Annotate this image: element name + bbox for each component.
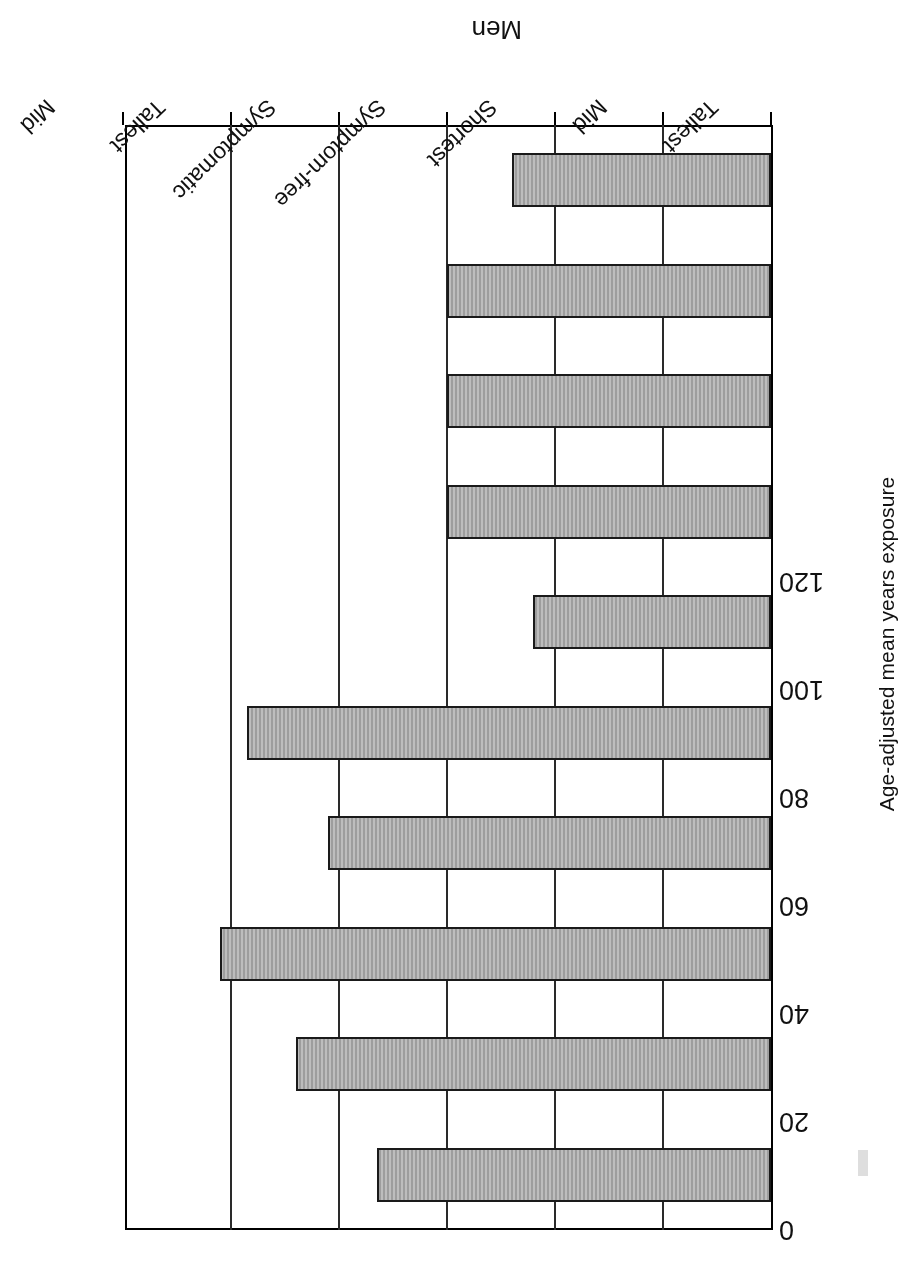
y-axis-tick-labels: 020406080100120 <box>779 125 841 1230</box>
bar-women-shortest <box>447 374 771 428</box>
y-axis-tick-label: 40 <box>779 999 841 1030</box>
y-axis-title: Age-adjusted mean years exposure <box>867 0 902 1288</box>
bar-women-symptomatic <box>512 153 771 207</box>
bar-men-tallest <box>377 1148 771 1202</box>
bar-series <box>125 125 771 1230</box>
bar-women-tallest <box>533 595 771 649</box>
bar-row <box>125 485 771 539</box>
category-axis-labels: TallestMidShortestSymptom-freeSymptomati… <box>125 3 773 123</box>
y-axis-tick-label: 0 <box>779 1215 841 1246</box>
bar-row <box>125 816 771 870</box>
y-axis-tick-label: 60 <box>779 891 841 922</box>
bar-women-mid <box>447 485 771 539</box>
bar-men-shortest <box>220 927 771 981</box>
y-axis-tick-label: 20 <box>779 1107 841 1138</box>
bar-row <box>125 1148 771 1202</box>
plot-area <box>125 125 773 1230</box>
bar-men-symptomatic <box>247 706 771 760</box>
bar-men-symptom-free <box>328 816 771 870</box>
group-label-men: Men <box>471 14 522 45</box>
bar-row <box>125 706 771 760</box>
y-axis-tick-label: 100 <box>779 675 841 706</box>
y-axis-tick-label: 120 <box>779 567 841 598</box>
y-axis-tick-label: 80 <box>779 783 841 814</box>
bar-row <box>125 264 771 318</box>
bar-women-symptom-free <box>447 264 771 318</box>
bar-men-mid <box>296 1037 771 1091</box>
category-label: Mid <box>15 94 60 139</box>
bar-row <box>125 595 771 649</box>
bar-row <box>125 374 771 428</box>
bar-row <box>125 1037 771 1091</box>
bar-row <box>125 927 771 981</box>
